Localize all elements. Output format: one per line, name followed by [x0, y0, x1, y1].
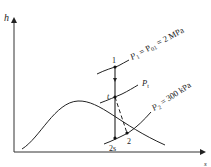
x-axis-label: s	[204, 160, 207, 167]
process-t-2-actual	[115, 97, 127, 133]
state-label-2s: 2s	[109, 144, 116, 153]
isobar-label-p1: P1 = P01 = 2 MPa	[127, 25, 186, 63]
isobar-pt	[100, 85, 138, 103]
state-point-2s	[113, 136, 116, 139]
h-s-diagram: h s 1 t 2s 2 P1 = P01 = 2 MPa Pt P2 = 30…	[0, 0, 211, 167]
process-arrow-icon	[113, 78, 117, 82]
state-point-2	[125, 131, 128, 134]
isobar-label-pt: Pt	[141, 78, 149, 89]
state-label-2: 2	[127, 137, 131, 146]
state-point-t	[113, 95, 116, 98]
state-point-1	[113, 65, 116, 68]
y-axis-label: h	[4, 12, 9, 23]
isobar-label-p2: P2 = 300 kPa	[149, 80, 194, 114]
saturation-dome	[22, 101, 165, 149]
state-label-1: 1	[112, 56, 116, 65]
